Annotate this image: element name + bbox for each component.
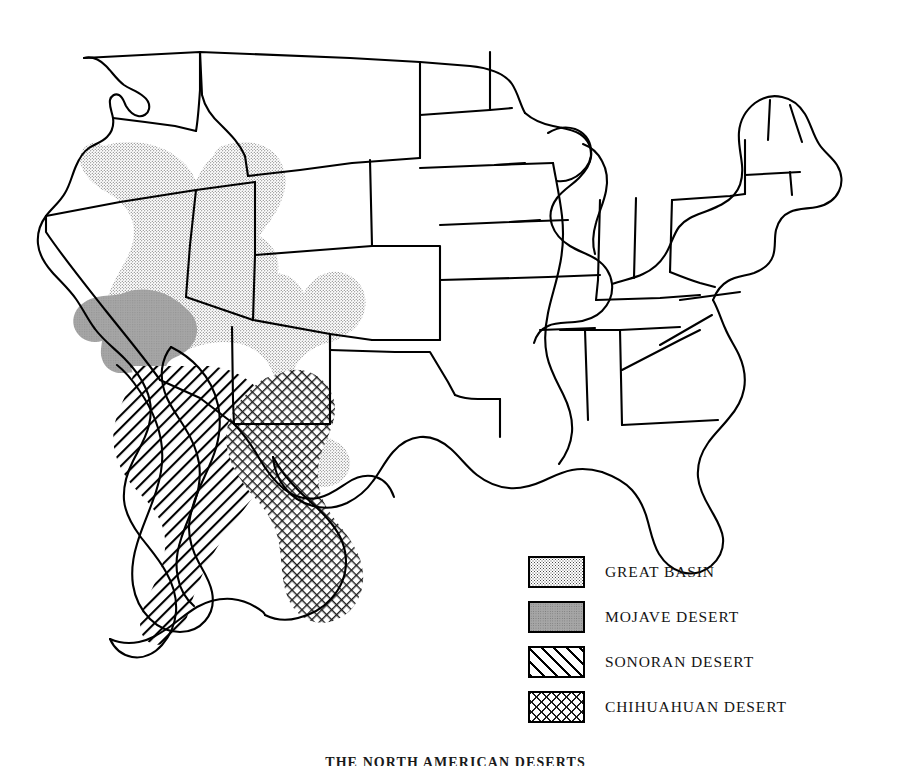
legend-swatch-sonoran-desert <box>528 646 585 678</box>
map-legend: GREAT BASIN MOJAVE DESERT SONORAN DESERT… <box>528 549 888 729</box>
legend-label-sonoran-desert: SONORAN DESERT <box>605 653 754 671</box>
legend-swatch-mojave-desert <box>528 601 585 633</box>
figure-caption: THE NORTH AMERICAN DESERTS <box>0 755 911 766</box>
legend-swatch-chihuahuan-desert <box>528 691 585 723</box>
legend-label-mojave-desert: MOJAVE DESERT <box>605 608 739 626</box>
legend-row-great-basin: GREAT BASIN <box>528 549 888 594</box>
legend-swatch-great-basin <box>528 556 585 588</box>
legend-row-mojave-desert: MOJAVE DESERT <box>528 594 888 639</box>
legend-row-sonoran-desert: SONORAN DESERT <box>528 639 888 684</box>
legend-row-chihuahuan-desert: CHIHUAHUAN DESERT <box>528 684 888 729</box>
desert-map-figure: GREAT BASIN MOJAVE DESERT SONORAN DESERT… <box>0 0 911 766</box>
legend-label-great-basin: GREAT BASIN <box>605 563 715 581</box>
legend-label-chihuahuan-desert: CHIHUAHUAN DESERT <box>605 698 787 716</box>
